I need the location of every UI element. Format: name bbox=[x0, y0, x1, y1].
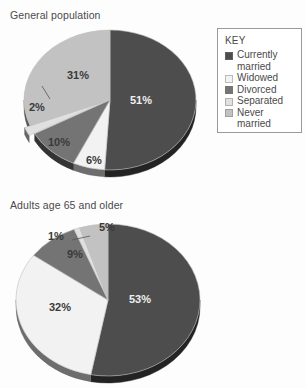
legend-swatch-separated-icon bbox=[225, 98, 233, 106]
slice-label-separated-bottom: 1% bbox=[48, 230, 64, 242]
slice-label-divorced-bottom: 9% bbox=[67, 248, 83, 260]
legend-item-separated[interactable]: Separated bbox=[225, 95, 297, 107]
legend-label-line1: Currently bbox=[237, 49, 278, 60]
legend-key: KEY Currently married Widowed Divorced S… bbox=[217, 28, 302, 133]
legend-swatch-divorced-icon bbox=[225, 86, 233, 94]
pie-chart-general-population: 51% 6% 10% 2% 31% bbox=[18, 26, 204, 182]
pie-svg-bottom bbox=[8, 216, 204, 384]
slice-label-never-married-bottom: 5% bbox=[99, 221, 115, 233]
legend-item-widowed[interactable]: Widowed bbox=[225, 72, 297, 84]
legend-label-line2: married bbox=[237, 118, 271, 130]
slice-label-separated-top: 2% bbox=[29, 101, 45, 113]
legend-item-currently-married[interactable]: Currently married bbox=[225, 49, 297, 72]
slice-label-currently-married-top: 51% bbox=[130, 94, 152, 106]
legend-item-divorced[interactable]: Divorced bbox=[225, 84, 297, 96]
slice-label-divorced-top: 10% bbox=[48, 136, 70, 148]
pie-chart-adults-65-and-older: 53% 32% 9% 1% 5% bbox=[8, 216, 204, 384]
slice-label-never-married-top: 31% bbox=[67, 69, 89, 81]
chart-title-adults-65-and-older: Adults age 65 and older bbox=[10, 199, 123, 211]
slice-label-currently-married-bottom: 53% bbox=[129, 293, 151, 305]
legend-swatch-widowed-icon bbox=[225, 75, 233, 83]
legend-label-widowed: Widowed bbox=[237, 72, 278, 84]
slice-label-widowed-top: 6% bbox=[86, 154, 102, 166]
legend-label-line1: Never bbox=[237, 107, 264, 118]
legend-label-currently-married: Currently married bbox=[237, 49, 278, 72]
legend-swatch-never-married-icon bbox=[225, 109, 233, 117]
legend-item-never-married[interactable]: Never married bbox=[225, 107, 297, 130]
pie-svg-top bbox=[18, 26, 204, 182]
legend-label-separated: Separated bbox=[237, 95, 283, 107]
chart-title-general-population: General population bbox=[10, 9, 101, 21]
legend-label-line2: married bbox=[237, 61, 278, 73]
legend-title: KEY bbox=[225, 35, 297, 46]
figure-canvas: General population 51% 6% 10% 2% 31% KEY… bbox=[0, 0, 306, 388]
legend-label-never-married: Never married bbox=[237, 107, 271, 130]
legend-swatch-currently-married-icon bbox=[225, 52, 233, 60]
slice-label-widowed-bottom: 32% bbox=[49, 301, 71, 313]
legend-label-divorced: Divorced bbox=[237, 84, 276, 96]
